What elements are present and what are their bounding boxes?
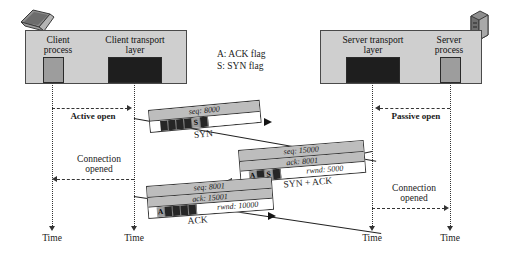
client-connection-opened-label-line1: Connection <box>62 154 136 165</box>
client-process-label-line1: Client <box>32 35 84 46</box>
server-transport-label-line2: layer <box>327 45 419 56</box>
timeline-client-process <box>52 82 53 228</box>
server-process-label-line1: Server <box>424 35 474 46</box>
server-process-box <box>440 57 461 83</box>
passive-open-label: Passive open <box>376 111 456 122</box>
active-open-arrow-head <box>127 105 132 111</box>
legend-ack-flag: A: ACK flag <box>217 48 266 60</box>
client-connection-opened-arrow-head <box>52 176 57 182</box>
server-process-label-line2: process <box>424 45 474 56</box>
server-connection-opened-arrow-line <box>372 208 445 209</box>
segment-ack: seq: 8001 ack: 15001 A rwnd: 10000 ACK <box>146 177 274 219</box>
passive-open-arrow-line <box>380 108 450 109</box>
diagram-canvas: Client process Client transport layer Se… <box>0 0 505 260</box>
client-process-label-line2: process <box>32 45 84 56</box>
timeline-server-process-arrow <box>447 226 453 231</box>
server-transport-box <box>346 57 400 83</box>
flag-cell <box>273 169 282 180</box>
client-connection-opened-arrow-line <box>57 179 134 180</box>
time-label-client-transport: Time <box>111 233 157 243</box>
client-connection-opened-label-line2: opened <box>62 164 136 175</box>
timeline-client-transport-arrow <box>131 226 137 231</box>
ack-transmission-arrow-head <box>268 212 276 220</box>
server-connection-opened-label-line1: Connection <box>378 183 450 194</box>
time-label-client-process: Time <box>29 233 75 243</box>
server-connection-opened-label-line2: opened <box>378 193 450 204</box>
active-open-label: Active open <box>52 111 134 122</box>
server-connection-opened-arrow-head <box>444 205 449 211</box>
active-open-arrow-line <box>52 108 128 109</box>
flag-cell <box>200 116 209 127</box>
passive-open-arrow-head <box>375 105 380 111</box>
client-transport-box <box>108 57 162 83</box>
server-transport-label-line1: Server transport <box>327 35 419 46</box>
segment-syn-ack: seq: 15000 ack: 8001 A S rwnd: 5000 SYN … <box>238 140 366 183</box>
client-process-box <box>43 57 64 83</box>
timeline-client-process-arrow <box>49 226 55 231</box>
client-transport-label-line1: Client transport <box>90 35 180 46</box>
timeline-server-process <box>450 82 451 228</box>
segment-syn: seq: 8000 S SYN <box>148 100 262 133</box>
time-label-server-transport: Time <box>349 233 395 243</box>
timeline-server-transport <box>372 82 373 228</box>
syn-transmission-arrow-head <box>264 118 272 126</box>
flag-cell <box>189 204 198 215</box>
time-label-server-process: Time <box>427 233 473 243</box>
client-transport-label-line2: layer <box>90 45 180 56</box>
legend-syn-flag: S: SYN flag <box>217 60 263 72</box>
